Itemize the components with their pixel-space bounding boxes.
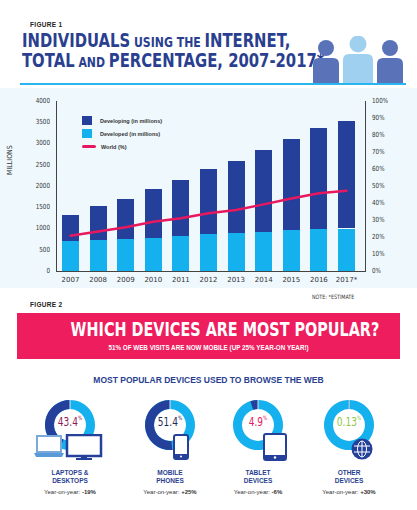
label-line: PHONES (125, 477, 215, 485)
x-tick: 2016 (304, 276, 334, 284)
tablet-icon (263, 433, 287, 461)
y2-tick: 50% (372, 182, 396, 190)
percentage-value: 43.4% (48, 414, 93, 429)
title-word: USING THE (130, 34, 204, 50)
device-tablets: 4.9% TABLET DEVICES Year-on-year: -6% (213, 395, 303, 495)
bar-developing (172, 180, 189, 235)
device-other: 0.13% OTHER DEVICES Year-on-year: +30% (304, 395, 394, 495)
bar-developing (338, 121, 355, 229)
yoy-value: -6% (272, 489, 283, 495)
title-line-2: TOTAL AND PERCENTAGE, 2007-2017* (22, 51, 233, 71)
devices-banner: WHICH DEVICES ARE MOST POPULAR? 51% OF W… (17, 313, 400, 359)
label-line: DESKTOPS (25, 477, 115, 485)
y2-tick: 60% (372, 165, 396, 173)
smartphone-icon (173, 434, 189, 460)
x-tick: 2015 (276, 276, 306, 284)
pct-number: 4.9 (249, 415, 263, 429)
device-label: TABLET DEVICES (213, 469, 303, 486)
y-tick: 2500 (26, 161, 50, 169)
x-tick: 2014 (249, 276, 279, 284)
label-line: TABLET (213, 469, 303, 477)
y-tick: 500 (26, 246, 50, 254)
bar-developing (228, 161, 245, 233)
percentage-value: 0.13% (327, 414, 372, 429)
y2-tick: 70% (372, 148, 396, 156)
pct-number: 43.4 (58, 415, 78, 429)
x-tick: 2017* (332, 276, 362, 284)
pct-number: 51.4 (158, 415, 178, 429)
y-tick: 0 (26, 267, 50, 275)
left-axis (56, 101, 57, 272)
year-on-year: Year-on-year: -19% (25, 489, 115, 495)
percentage-value: 51.4% (148, 414, 193, 429)
bar-developing (200, 169, 217, 234)
estimate-note: NOTE: *ESTIMATE (312, 293, 354, 300)
yoy-value: +30% (360, 489, 376, 495)
bar-developing (145, 189, 162, 238)
bar-developed (200, 234, 217, 271)
banner-subtitle: 51% OF WEB VISITS ARE NOW MOBILE (UP 25%… (17, 344, 400, 351)
bar-developed (255, 232, 272, 271)
bar-developing (62, 215, 79, 241)
label-line: LAPTOPS & (25, 469, 115, 477)
chart-title: INDIVIDUALS USING THE INTERNET, TOTAL AN… (22, 31, 233, 71)
y2-tick: 100% (372, 97, 396, 105)
title-word: INDIVIDUALS (22, 29, 130, 51)
label-line: DEVICES (213, 477, 303, 485)
year-on-year: Year-on-year: -6% (213, 489, 303, 495)
bottom-axis (56, 271, 366, 272)
y2-tick: 80% (372, 131, 396, 139)
legend-item-developed: Developed (in millions) (82, 127, 162, 140)
y2-tick: 90% (372, 114, 396, 122)
year-on-year: Year-on-year: +30% (304, 489, 394, 495)
x-tick: 2013 (221, 276, 251, 284)
device-mobile-phones: 51.4% MOBILE PHONES Year-on-year: +25% (125, 395, 215, 495)
yoy-value: +25% (181, 489, 197, 495)
legend-label: Developing (in millions) (100, 118, 162, 124)
x-tick: 2007 (56, 276, 86, 284)
people-group-icon (303, 36, 413, 83)
y2-tick: 40% (372, 199, 396, 207)
y-axis-title: MILLIONS (6, 145, 14, 175)
y2-tick: 20% (372, 233, 396, 241)
legend-label: World (%) (101, 144, 127, 150)
x-tick: 2008 (83, 276, 113, 284)
bar-developing (117, 199, 134, 239)
bar-developed (145, 238, 162, 271)
device-label: MOBILE PHONES (125, 469, 215, 486)
bar-developed (90, 240, 107, 271)
donut-chart: 43.4% (40, 395, 100, 455)
bar-developed (338, 229, 355, 272)
device-laptops-desktops: 43.4% LAPTOPS & DESKTOPS Year-on-year: -… (25, 395, 115, 495)
y-tick: 4000 (26, 97, 50, 105)
y-tick: 3500 (26, 118, 50, 126)
y2-tick: 10% (372, 250, 396, 258)
devices-heading: MOST POPULAR DEVICES USED TO BROWSE THE … (0, 375, 417, 385)
bar-developing (90, 206, 107, 240)
y2-tick: 30% (372, 216, 396, 224)
legend-label: Developed (in millions) (100, 131, 160, 137)
legend-item-developing: Developing (in millions) (82, 114, 162, 127)
y-tick: 1500 (26, 203, 50, 211)
title-word: INTERNET, (205, 29, 291, 51)
laptop-desktop-icon (34, 434, 108, 460)
right-axis (365, 101, 366, 272)
donut-chart: 0.13% (319, 395, 379, 455)
label-line: DEVICES (304, 477, 394, 485)
x-tick: 2012 (194, 276, 224, 284)
bar-developed (310, 229, 327, 271)
yoy-value: -19% (82, 489, 96, 495)
bar-developed (283, 230, 300, 271)
title-underline (20, 83, 406, 85)
legend-swatch (82, 116, 92, 125)
x-tick: 2011 (166, 276, 196, 284)
donut-chart: 4.9% (228, 395, 288, 455)
title-word: TOTAL (22, 49, 75, 71)
figure-1-label: FIGURE 1 (30, 21, 62, 28)
bar-developed (62, 241, 79, 271)
y-tick: 1000 (26, 224, 50, 232)
bar-developed (172, 236, 189, 271)
label-line: OTHER (304, 469, 394, 477)
percentage-value: 4.9% (236, 414, 281, 429)
legend-line (82, 145, 96, 148)
